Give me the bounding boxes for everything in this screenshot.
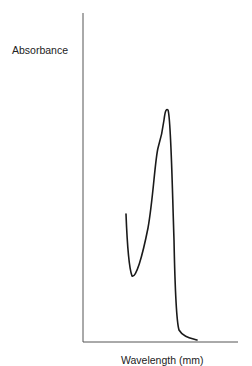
x-axis-label: Wavelength (mm) [0,354,252,366]
absorbance-chart [0,0,252,366]
spectrum-curve [126,109,197,340]
